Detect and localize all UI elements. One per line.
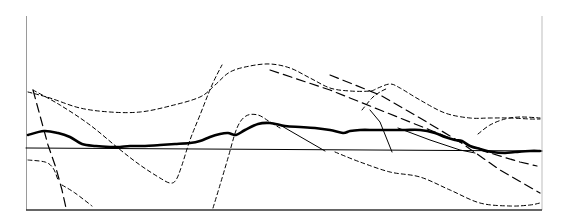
series-line-short-dash-low-left [28, 160, 58, 180]
series-line-short-dash-low-left-2 [62, 185, 92, 206]
series-line-short-dash-right-bump [478, 117, 540, 134]
plot-area [0, 0, 564, 223]
series-layer [26, 64, 542, 208]
series-line-short-dash-upper [28, 64, 540, 119]
series-line-short-dash-s-curve [33, 65, 222, 183]
series-line-long-dash-steep-left [33, 90, 66, 208]
series-line-short-dash-lower-right [335, 152, 540, 206]
line-chart [0, 0, 564, 223]
